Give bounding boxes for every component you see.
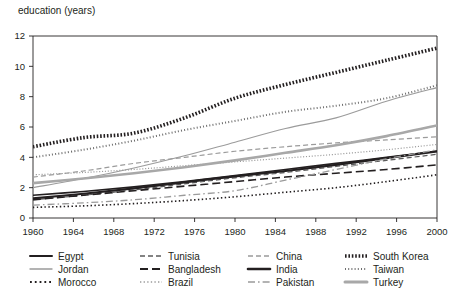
chart-canvas: education (years)02468101219601964196819… — [0, 0, 457, 292]
y-axis-tick-label: 2 — [20, 182, 25, 193]
legend-label-turkey[interactable]: Turkey — [373, 277, 403, 288]
x-axis-tick-label: 1980 — [224, 226, 245, 237]
y-axis-tick-label: 10 — [14, 61, 25, 72]
x-axis-tick-label: 1972 — [144, 226, 165, 237]
series-line-south-korea — [33, 48, 437, 147]
legend-label-pakistan[interactable]: Pakistan — [276, 277, 314, 288]
x-axis-tick-label: 1988 — [305, 226, 326, 237]
legend-label-tunisia[interactable]: Tunisia — [168, 251, 200, 262]
x-axis-tick-label: 1996 — [386, 226, 407, 237]
x-axis-tick-label: 2000 — [426, 226, 447, 237]
y-axis-tick-label: 4 — [20, 152, 25, 163]
series-line-turkey — [33, 125, 437, 183]
series-line-taiwan — [33, 85, 437, 157]
series-group — [33, 48, 437, 207]
legend-label-morocco[interactable]: Morocco — [58, 277, 97, 288]
education-years-line-chart: education (years)02468101219601964196819… — [0, 0, 457, 292]
legend-label-bangladesh[interactable]: Bangladesh — [168, 264, 221, 275]
y-axis-title: education (years) — [18, 5, 95, 16]
series-line-bangladesh — [33, 165, 437, 200]
legend-label-china[interactable]: China — [276, 251, 303, 262]
y-axis-tick-label: 12 — [14, 30, 25, 41]
x-axis-tick-label: 1960 — [22, 226, 43, 237]
series-line-china — [33, 137, 437, 177]
legend-label-jordan[interactable]: Jordan — [58, 264, 89, 275]
legend-label-taiwan[interactable]: Taiwan — [373, 264, 404, 275]
legend-label-egypt[interactable]: Egypt — [58, 251, 84, 262]
legend-label-brazil[interactable]: Brazil — [168, 277, 193, 288]
legend-label-south-korea[interactable]: South Korea — [373, 251, 429, 262]
y-axis-tick-label: 8 — [20, 91, 25, 102]
x-axis-tick-label: 1968 — [103, 226, 124, 237]
x-axis-tick-label: 1992 — [346, 226, 367, 237]
y-axis-tick-label: 6 — [20, 121, 25, 132]
legend-label-india[interactable]: India — [276, 264, 298, 275]
x-axis-tick-label: 1976 — [184, 226, 205, 237]
y-axis-tick-label: 0 — [20, 212, 25, 223]
series-line-egypt — [33, 151, 437, 195]
x-axis-tick-label: 1964 — [63, 226, 84, 237]
x-axis-tick-label: 1984 — [265, 226, 286, 237]
